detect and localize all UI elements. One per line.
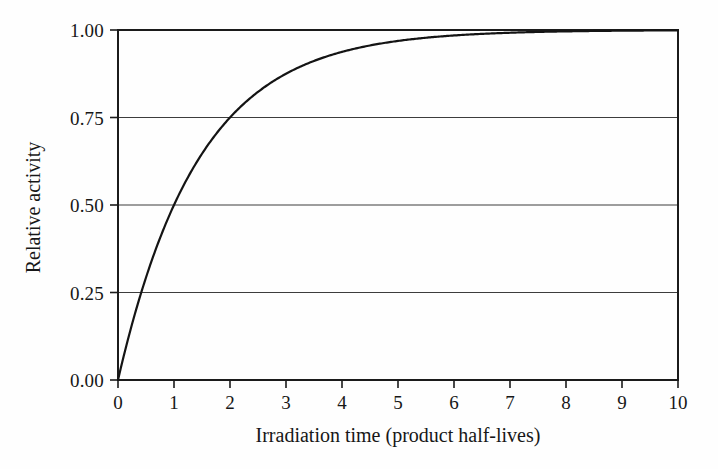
y-tick-label-1.00: 1.00 <box>52 21 104 40</box>
x-tick-label-7: 7 <box>490 393 530 412</box>
x-tick-label-3: 3 <box>266 393 306 412</box>
chart-figure: 1.00 0.75 0.50 0.25 0.00 0 1 2 3 4 5 6 7… <box>0 0 718 469</box>
x-tick-label-1: 1 <box>154 393 194 412</box>
y-tick-label-0.25: 0.25 <box>52 284 104 303</box>
x-tick-label-8: 8 <box>546 393 586 412</box>
x-axis-title: Irradiation time (product half-lives) <box>118 424 678 447</box>
y-axis-title: Relative activity <box>22 108 45 308</box>
y-axis-ticks <box>110 30 118 380</box>
x-tick-label-9: 9 <box>602 393 642 412</box>
x-tick-label-10: 10 <box>658 393 698 412</box>
x-tick-label-4: 4 <box>322 393 362 412</box>
y-tick-label-0.50: 0.50 <box>52 196 104 215</box>
y-tick-label-0.75: 0.75 <box>52 109 104 128</box>
x-axis-ticks <box>118 380 678 388</box>
y-tick-label-0.00: 0.00 <box>52 371 104 390</box>
x-tick-label-0: 0 <box>98 393 138 412</box>
x-tick-label-5: 5 <box>378 393 418 412</box>
x-tick-label-6: 6 <box>434 393 474 412</box>
x-tick-label-2: 2 <box>210 393 250 412</box>
